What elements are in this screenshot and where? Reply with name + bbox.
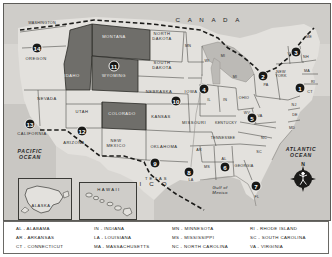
state-label-la: LA [188, 178, 193, 182]
map-marker-10[interactable]: 10 [171, 96, 182, 107]
state-label-il: IL [207, 98, 211, 102]
state-label-ne: NEBRASKA [146, 90, 172, 95]
state-label-ut: UTAH [76, 110, 89, 115]
legend-entry: CT - CONNECTICUT [16, 243, 94, 251]
legend-entry: IN - INDIANA [94, 225, 172, 233]
alaska-inset-box: ALASKA [18, 178, 72, 220]
state-label-ms: MS [204, 165, 210, 169]
state-label-ri: RI [311, 80, 315, 84]
state-label-ar: AR [196, 148, 202, 152]
state-label-ok: OKLAHOMA [150, 145, 177, 150]
state-label-nv: NEVADA [37, 97, 57, 102]
state-label-sc: SC [256, 150, 262, 154]
state-label-fl: FL [255, 195, 260, 199]
map-marker-9[interactable]: 9 [150, 158, 161, 169]
legend-entry: MA - MASSACHUSETTS [94, 243, 172, 251]
highlight-region-montana [92, 24, 150, 60]
legend-entry: NC - NORTH CAROLINA [172, 243, 250, 251]
state-label-wy: WYOMING [102, 74, 126, 79]
legend-grid: AL - ALABAMAIN - INDIANAMN - MINNESOTARI… [4, 225, 328, 251]
state-label-va: VA [257, 114, 262, 118]
map-marker-13[interactable]: 13 [25, 119, 36, 130]
state-label-sd: SOUTHDAKOTA [152, 61, 172, 70]
map-marker-12[interactable]: 12 [77, 126, 88, 137]
state-label-mn: MN [185, 44, 191, 48]
state-label-mo: MISSOURI [182, 121, 206, 126]
map-marker-3[interactable]: 3 [291, 47, 302, 58]
legend-entry: VA - VIRGINIA [250, 243, 328, 251]
gulf-of-mexico-label: Gulf of Mexico [212, 185, 227, 196]
state-label-co: COLORADO [108, 112, 135, 117]
gulf-label-line2: Mexico [212, 190, 227, 195]
state-label-ks: KANSAS [151, 115, 171, 120]
state-label-ma: MA [304, 69, 310, 73]
legend-entry: LA - LOUISIANA [94, 234, 172, 242]
state-label-nc: NC [261, 136, 267, 140]
legend-entry: MN - MINNESOTA [172, 225, 250, 233]
state-label-id: IDAHO [64, 74, 79, 79]
state-label-wa: WASHINGTON [28, 21, 56, 25]
map-panel: WASHINGTONOREGONIDAHOMONTANANORTHDAKOTAS… [3, 3, 331, 221]
map-marker-6[interactable]: 6 [220, 162, 231, 173]
map-marker-4[interactable]: 4 [199, 84, 210, 95]
state-label-ga: GEORGIA [235, 164, 254, 168]
map-marker-5[interactable]: 5 [247, 113, 258, 124]
state-label-ky: KENTUCKY [215, 121, 237, 125]
state-label-or: OREGON [25, 57, 46, 62]
map-marker-2[interactable]: 2 [258, 71, 269, 82]
legend-entry: MS - MISSISSIPPI [172, 234, 250, 242]
map-marker-1[interactable]: 1 [295, 83, 306, 94]
compass-rose-icon [290, 166, 316, 192]
atlantic-ocean-label-line2: OCEAN [286, 152, 317, 158]
pacific-ocean-label: PACIFIC OCEAN [18, 148, 43, 161]
legend-entry: AR - ARKANSAS [16, 234, 94, 242]
legend-entry: AL - ALABAMA [16, 225, 94, 233]
pacific-ocean-label-line2: OCEAN [18, 154, 43, 160]
alaska-inset-shape [19, 179, 71, 219]
state-label-mi-up: MI [221, 54, 226, 58]
state-label-nh: NH [303, 55, 309, 59]
contiguous-us-landmass [18, 17, 320, 200]
state-label-in: IN [223, 98, 227, 102]
canada-label: C A N A D A [176, 16, 243, 24]
state-label-az: ARIZONA [63, 141, 85, 146]
map-marker-11[interactable]: 11 [109, 61, 120, 72]
state-label-ny: NEWYORK [275, 70, 286, 79]
state-label-mi: MI [233, 75, 238, 79]
state-label-pa: PA [263, 83, 268, 87]
us-regional-map-figure: WASHINGTONOREGONIDAHOMONTANANORTHDAKOTAS… [0, 0, 332, 257]
hawaii-inset-label: HAWAII [97, 187, 120, 192]
state-label-oh: OHIO [239, 96, 249, 100]
map-marker-8[interactable]: 8 [184, 167, 195, 178]
state-abbreviation-legend: AL - ALABAMAIN - INDIANAMN - MINNESOTARI… [3, 221, 329, 254]
state-label-ia: IOWA [185, 90, 198, 95]
state-label-tn: TENNESSEE [211, 136, 236, 140]
hawaii-inset-box: HAWAII [79, 182, 137, 220]
legend-entry: SC - SOUTH CAROLINA [250, 234, 328, 242]
state-label-wi: WI [204, 59, 209, 63]
state-label-ca: CALIFORNIA [17, 132, 47, 137]
state-label-de: DE [292, 113, 298, 117]
alaska-inset-label: ALASKA [31, 203, 50, 208]
state-label-ct: CT [307, 90, 312, 94]
state-label-mt: MONTANA [102, 35, 126, 40]
legend-entry: RI - RHODE ISLAND [250, 225, 328, 233]
map-marker-14[interactable]: 14 [32, 43, 43, 54]
state-label-md: MD [289, 126, 295, 130]
state-label-me: ME [306, 35, 312, 39]
state-label-nd: NORTHDAKOTA [152, 32, 172, 41]
state-label-nm: NEWMEXICO [106, 139, 125, 148]
state-label-nj: NJ [291, 103, 296, 107]
atlantic-ocean-label: ATLANTIC OCEAN [286, 146, 317, 159]
state-label-al: AL [221, 157, 226, 161]
map-marker-7[interactable]: 7 [251, 181, 262, 192]
